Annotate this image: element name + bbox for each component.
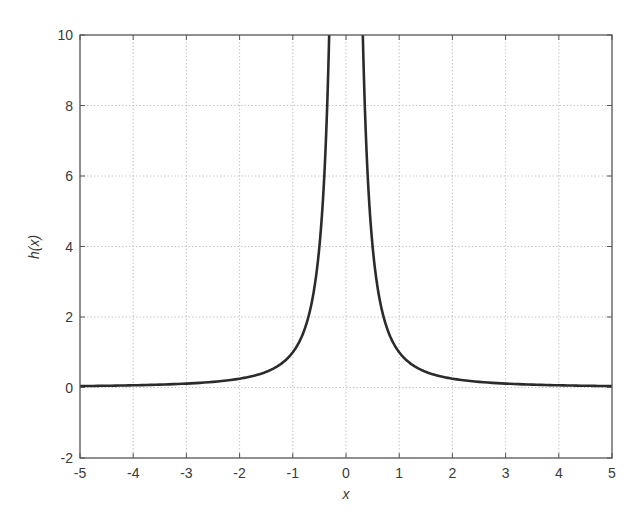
x-tick-label: 0 [342,465,350,481]
x-tick-label: -5 [74,465,87,481]
y-tick-label: 8 [65,98,73,114]
y-tick-label: 4 [65,239,73,255]
x-tick-label: 5 [608,465,616,481]
figure-background [0,0,644,530]
y-tick-label: 2 [65,309,73,325]
x-tick-label: -2 [233,465,246,481]
x-tick-label: -1 [287,465,300,481]
y-axis-label: h(x) [26,235,42,259]
y-tick-label: 10 [57,27,73,43]
x-axis-label: x [342,486,351,502]
x-tick-label: -3 [180,465,193,481]
y-tick-label: 0 [65,380,73,396]
x-tick-label: 1 [395,465,403,481]
x-tick-label: 2 [449,465,457,481]
x-tick-label: 3 [502,465,510,481]
x-tick-label: 4 [555,465,563,481]
y-tick-label: -2 [61,450,74,466]
x-tick-label: -4 [127,465,140,481]
function-plot: -5-4-3-2-1012345 -20246810 x h(x) [0,0,644,530]
y-tick-label: 6 [65,168,73,184]
